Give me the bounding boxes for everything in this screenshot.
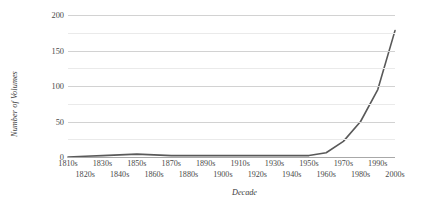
chart-container: Number of Volumes 050100150200 1810s1820… [0, 0, 428, 209]
x-axis-tick-label: 1970s [334, 159, 353, 168]
gridline-major [68, 51, 395, 52]
gridline-minor [68, 68, 395, 69]
gridline-major [68, 122, 395, 123]
x-axis-tick-label: 1820s [76, 170, 95, 179]
x-axis-tick-label: 1940s [282, 170, 301, 179]
x-axis-tick-label: 1900s [213, 170, 232, 179]
x-axis-tick-label: 1870s [162, 159, 181, 168]
y-axis-tick-label: 200 [4, 11, 64, 20]
gridline-major [68, 86, 395, 87]
x-axis-tick-label: 1810s [58, 159, 77, 168]
x-axis-tick-labels: 1810s1820s1830s1840s1850s1860s1870s1880s… [68, 158, 395, 186]
gridline-minor [68, 139, 395, 140]
x-axis-tick-label: 1840s [110, 170, 129, 179]
x-axis-tick-label: 1920s [248, 170, 267, 179]
y-axis-tick-label: 50 [4, 117, 64, 126]
x-axis-tick-label: 1930s [265, 159, 284, 168]
x-axis-tick-label: 1990s [368, 159, 387, 168]
gridline-major [68, 15, 395, 16]
gridline-minor [68, 104, 395, 105]
plot-area [68, 15, 395, 157]
x-axis-tick-label: 1910s [230, 159, 249, 168]
x-axis-tick-label: 1950s [299, 159, 318, 168]
x-axis-tick-label: 1890s [196, 159, 215, 168]
y-axis-tick-labels: 050100150200 [0, 0, 64, 209]
x-axis-tick-label: 1830s [93, 159, 112, 168]
y-axis-tick-label: 150 [4, 46, 64, 55]
x-axis-tick-label: 1860s [144, 170, 163, 179]
x-axis-tick-label: 1980s [351, 170, 370, 179]
gridline-minor [68, 33, 395, 34]
x-axis-tick-label: 2000s [385, 170, 404, 179]
y-axis-tick-label: 100 [4, 82, 64, 91]
x-axis-tick-label: 1960s [316, 170, 335, 179]
x-axis-tick-label: 1850s [127, 159, 146, 168]
x-axis-tick-label: 1880s [179, 170, 198, 179]
y-axis-tick-label: 0 [4, 153, 64, 162]
x-axis-title: Decade [232, 188, 257, 197]
